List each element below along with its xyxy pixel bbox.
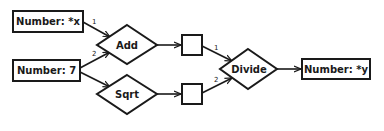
add-result-box[interactable] bbox=[182, 35, 202, 55]
edge-x-to-add bbox=[83, 22, 110, 37]
node-input-7[interactable]: Number: 7 bbox=[13, 60, 80, 81]
port-label-add-2: 2 bbox=[92, 50, 96, 58]
sqrt-label: Sqrt bbox=[115, 89, 139, 100]
divide-label: Divide bbox=[231, 64, 267, 75]
node-divide[interactable]: Divide bbox=[220, 49, 277, 89]
port-label-add-1: 1 bbox=[92, 18, 96, 26]
edge-7-to-sqrt bbox=[80, 72, 110, 87]
node-sqrt-result[interactable] bbox=[182, 84, 202, 104]
node-output-y[interactable]: Number: *y bbox=[302, 59, 370, 79]
dataflow-diagram: 1 2 1 2 Number: *x Number: 7 Add Sqrt Di… bbox=[0, 0, 384, 131]
port-label-divide-1: 1 bbox=[214, 44, 218, 52]
input-7-label: Number: 7 bbox=[17, 65, 76, 76]
sqrt-result-box[interactable] bbox=[182, 84, 202, 104]
node-add-result[interactable] bbox=[182, 35, 202, 55]
node-sqrt[interactable]: Sqrt bbox=[97, 75, 157, 114]
output-y-label: Number: *y bbox=[304, 64, 368, 75]
add-label: Add bbox=[116, 40, 138, 51]
node-add[interactable]: Add bbox=[97, 25, 157, 64]
port-label-divide-2: 2 bbox=[214, 76, 218, 84]
node-input-x[interactable]: Number: *x bbox=[13, 11, 83, 32]
input-x-label: Number: *x bbox=[16, 16, 80, 27]
